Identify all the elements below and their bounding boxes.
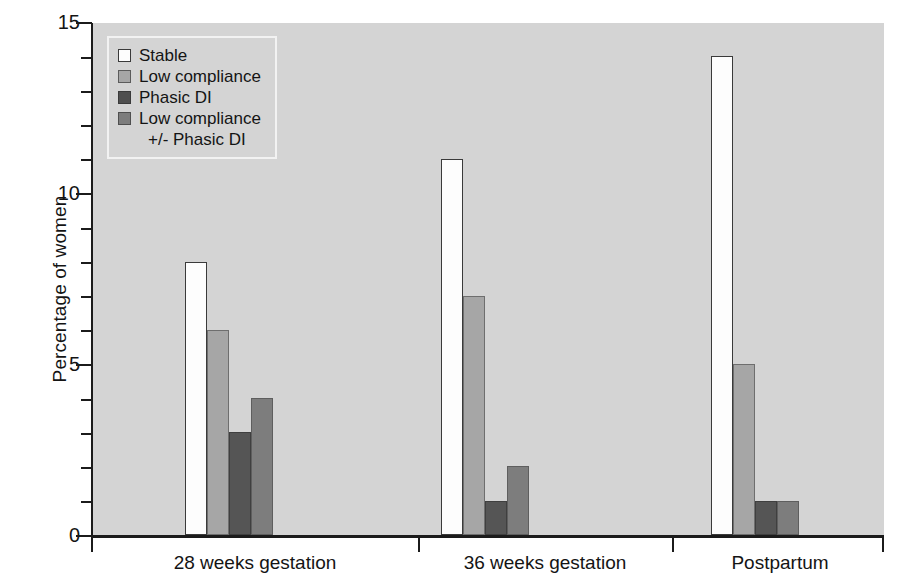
x-category-label-28-weeks: 28 weeks gestation <box>135 552 375 574</box>
y-axis-tick-major-10 <box>76 193 92 195</box>
legend-label-stable: Stable <box>139 47 187 64</box>
bar-postpartum-stable <box>711 56 733 535</box>
bar-chart-figure: Percentage of women 15 10 5 0 <box>0 0 900 588</box>
bar-28weeks-low-compliance <box>207 330 229 535</box>
x-category-label-36-weeks: 36 weeks gestation <box>425 552 665 574</box>
legend-label-low-compliance: Low compliance <box>139 68 261 85</box>
legend-label-continuation: +/- Phasic DI <box>118 129 261 149</box>
legend-swatch-low-compliance-icon <box>118 70 131 83</box>
legend-item-low-compliance: Low compliance <box>118 66 261 86</box>
bar-postpartum-phasic-di <box>755 501 777 535</box>
x-category-label-postpartum: Postpartum <box>660 552 900 574</box>
bar-28weeks-phasic-di <box>229 432 251 535</box>
x-axis-tick-end <box>882 538 884 552</box>
y-axis-tick-labels: 15 10 5 0 <box>42 0 80 588</box>
legend-label-phasic-di: Phasic DI <box>139 89 212 106</box>
y-tick-label-15: 15 <box>42 12 80 32</box>
plot-area: Stable Low compliance Phasic DI Low comp… <box>93 23 884 535</box>
bar-36weeks-low-compliance-phasic-di <box>507 466 529 535</box>
y-axis-tick-major-15 <box>76 22 92 24</box>
x-axis-category-labels: 28 weeks gestation 36 weeks gestation Po… <box>0 552 900 582</box>
bar-postpartum-low-compliance-phasic-di <box>777 501 799 535</box>
x-axis-tick-2 <box>672 538 674 552</box>
y-axis-tick-major-5 <box>76 364 92 366</box>
bar-36weeks-stable <box>441 159 463 535</box>
x-axis-line <box>91 535 884 538</box>
x-axis-tick-start <box>91 538 93 552</box>
bar-36weeks-phasic-di <box>485 501 507 535</box>
bar-28weeks-stable <box>185 262 207 535</box>
legend-label-low-compliance-phasic-di: Low compliance <box>139 110 261 127</box>
legend-swatch-stable-icon <box>118 49 131 62</box>
y-axis-tick-major-0 <box>76 535 92 537</box>
legend-item-stable: Stable <box>118 45 261 65</box>
bar-postpartum-low-compliance <box>733 364 755 535</box>
y-tick-label-10: 10 <box>42 183 80 203</box>
legend-item-phasic-di: Phasic DI <box>118 87 261 107</box>
y-tick-label-0: 0 <box>42 525 80 545</box>
legend-item-low-compliance-phasic-di: Low compliance <box>118 108 261 128</box>
bar-28weeks-low-compliance-phasic-di <box>251 398 273 535</box>
legend-swatch-phasic-di-icon <box>118 91 131 104</box>
legend-swatch-low-compliance-phasic-di-icon <box>118 112 131 125</box>
y-tick-label-5: 5 <box>42 354 80 374</box>
chart-legend: Stable Low compliance Phasic DI Low comp… <box>107 36 277 159</box>
bar-36weeks-low-compliance <box>463 296 485 535</box>
x-axis-tick-1 <box>418 538 420 552</box>
